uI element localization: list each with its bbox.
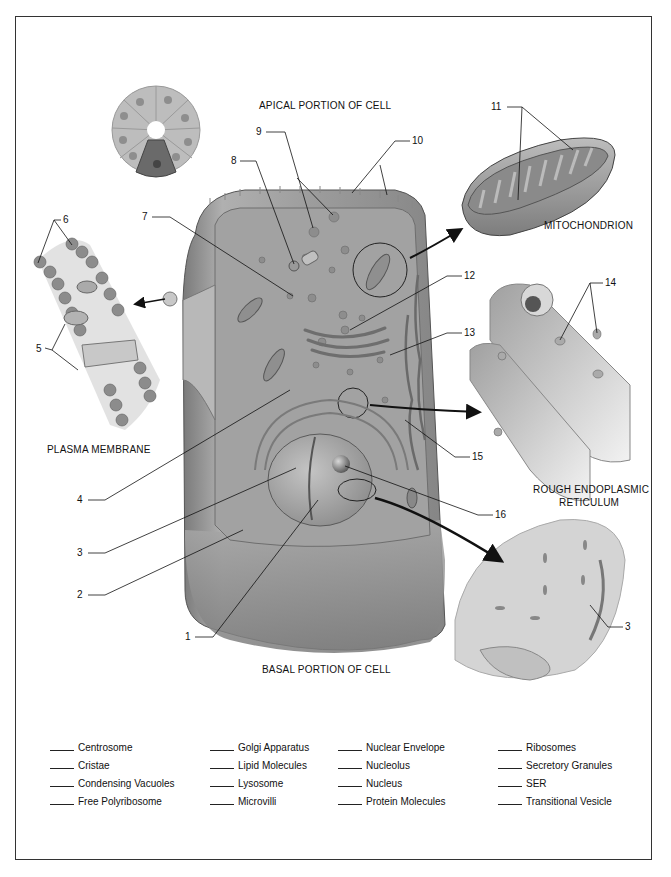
key-column-4: Ribosomes Secretory Granules SER Transit… xyxy=(498,735,612,807)
key-item[interactable]: Nucleus xyxy=(338,771,445,789)
answer-blank[interactable] xyxy=(498,804,522,805)
callout-14: 14 xyxy=(605,277,616,288)
callout-1: 1 xyxy=(185,631,191,642)
key-item[interactable]: Microvilli xyxy=(210,789,309,807)
key-item[interactable]: Transitional Vesicle xyxy=(498,789,612,807)
title-rer-line2: RETICULUM xyxy=(559,497,619,508)
key-column-2: Golgi Apparatus Lipid Molecules Lysosome… xyxy=(210,735,309,807)
callout-12: 12 xyxy=(464,270,475,281)
answer-blank[interactable] xyxy=(498,786,522,787)
cell-body xyxy=(183,186,445,653)
title-basal: BASAL PORTION OF CELL xyxy=(262,664,391,675)
key-item[interactable]: SER xyxy=(498,771,612,789)
key-item[interactable]: Lipid Molecules xyxy=(210,753,309,771)
callout-9: 9 xyxy=(256,126,262,137)
title-plasma-membrane: PLASMA MEMBRANE xyxy=(47,444,151,455)
key-column-3: Nuclear Envelope Nucleolus Nucleus Prote… xyxy=(338,735,445,807)
acinus-illustration xyxy=(112,86,200,177)
title-rer-line1: ROUGH ENDOPLASMIC xyxy=(533,484,649,495)
callout-10: 10 xyxy=(412,135,423,146)
answer-blank[interactable] xyxy=(50,768,74,769)
answer-blank[interactable] xyxy=(210,804,234,805)
callout-8: 8 xyxy=(231,155,237,166)
answer-blank[interactable] xyxy=(50,804,74,805)
plasma-membrane-illustration xyxy=(34,238,177,430)
callout-6: 6 xyxy=(63,214,69,225)
answer-blank[interactable] xyxy=(50,750,74,751)
answer-blank[interactable] xyxy=(338,768,362,769)
key-item[interactable]: Ribosomes xyxy=(498,735,612,753)
key-item[interactable]: Golgi Apparatus xyxy=(210,735,309,753)
key-column-1: Centrosome Cristae Condensing Vacuoles F… xyxy=(50,735,175,807)
key-item[interactable]: Nuclear Envelope xyxy=(338,735,445,753)
title-apical: APICAL PORTION OF CELL xyxy=(259,100,391,111)
callout-3: 3 xyxy=(77,547,83,558)
answer-blank[interactable] xyxy=(210,786,234,787)
answer-blank[interactable] xyxy=(498,750,522,751)
callout-3-detail: 3 xyxy=(625,621,631,632)
callout-16: 16 xyxy=(495,509,506,520)
key-item[interactable]: Condensing Vacuoles xyxy=(50,771,175,789)
key-item[interactable]: Lysosome xyxy=(210,771,309,789)
callout-5: 5 xyxy=(36,343,42,354)
key-item[interactable]: Secretory Granules xyxy=(498,753,612,771)
callout-13: 13 xyxy=(464,327,475,338)
mitochondrion-illustration xyxy=(410,138,615,258)
answer-blank[interactable] xyxy=(498,768,522,769)
callout-4: 4 xyxy=(77,494,83,505)
answer-blank[interactable] xyxy=(338,750,362,751)
key-item[interactable]: Protein Molecules xyxy=(338,789,445,807)
key-item[interactable]: Centrosome xyxy=(50,735,175,753)
callout-7: 7 xyxy=(142,211,148,222)
callout-15: 15 xyxy=(472,451,483,462)
answer-blank[interactable] xyxy=(338,804,362,805)
answer-blank[interactable] xyxy=(338,786,362,787)
key-item[interactable]: Nucleolus xyxy=(338,753,445,771)
title-mitochondrion: MITOCHONDRION xyxy=(544,220,633,231)
answer-blank[interactable] xyxy=(210,768,234,769)
answer-blank[interactable] xyxy=(50,786,74,787)
key-item[interactable]: Cristae xyxy=(50,753,175,771)
key-item[interactable]: Free Polyribosome xyxy=(50,789,175,807)
callout-11: 11 xyxy=(491,101,501,112)
answer-blank[interactable] xyxy=(210,750,234,751)
callout-2: 2 xyxy=(77,589,83,600)
